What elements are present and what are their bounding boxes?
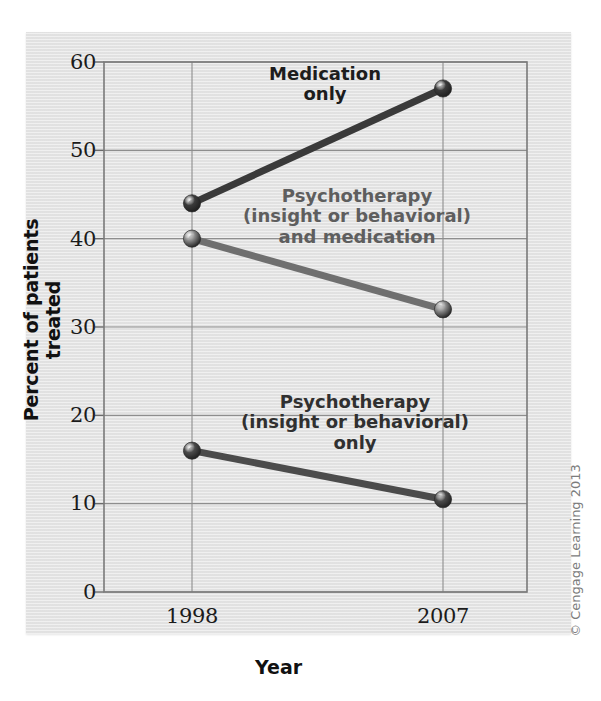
series-label-psychotherapy-and-medication: Psychotherapy (insight or behavioral) an… (238, 186, 476, 247)
y-tick-label-0: 0 (50, 580, 96, 604)
gridlines (95, 62, 527, 592)
series-line-1 (192, 239, 443, 310)
y-tick-label-10: 10 (50, 491, 96, 515)
copyright-notice: © Cengage Learning 2013 (568, 451, 583, 651)
data-point-s0-2007 (434, 80, 451, 97)
y-tick-label-50: 50 (50, 138, 96, 162)
x-tick-label-2007: 2007 (398, 604, 488, 628)
data-point-s2-2007 (434, 491, 451, 508)
y-tick-label-60: 60 (50, 50, 96, 74)
series-line-2 (192, 451, 443, 500)
data-point-s0-1998 (183, 195, 200, 212)
data-point-s1-1998 (183, 230, 200, 247)
series-label-medication-only: Medication only (230, 64, 420, 105)
series-label-psychotherapy-only: Psychotherapy (insight or behavioral) on… (236, 392, 474, 453)
x-tick-label-1998: 1998 (147, 604, 237, 628)
y-axis-title: Percent of patients treated (20, 190, 64, 450)
x-axis-title: Year (255, 656, 302, 678)
data-point-s2-1998 (183, 442, 200, 459)
data-point-s1-2007 (434, 301, 451, 318)
